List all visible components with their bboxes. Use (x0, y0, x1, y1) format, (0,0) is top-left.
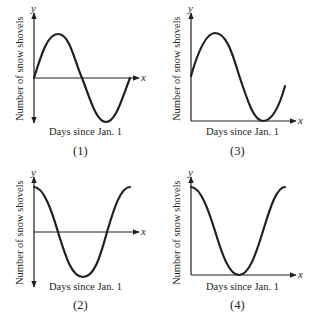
graph-2: y x Number of snow shovels Days since Ja… (14, 166, 146, 312)
y-axis-label: Number of snow shovels (171, 180, 182, 285)
graph-caption: (1) (73, 144, 88, 158)
y-axis-label: Number of snow shovels (171, 16, 182, 121)
graph-caption: (3) (230, 144, 245, 158)
x-axis-letter: x (140, 71, 146, 83)
y-axis-letter: y (187, 166, 193, 178)
x-axis-label: Days since Jan. 1 (49, 126, 122, 137)
x-axis-letter: x (297, 268, 303, 280)
graph-caption: (2) (73, 298, 88, 312)
y-axis-letter: y (30, 2, 36, 14)
graph-grid: y x Number of snow shovels Days since Ja… (0, 0, 313, 313)
y-axis-letter: y (187, 2, 193, 14)
x-axis-letter: x (297, 114, 303, 126)
graph-caption: (4) (230, 298, 245, 312)
y-axis-label: Number of snow shovels (14, 180, 25, 285)
y-axis-letter: y (30, 166, 36, 178)
x-axis-label: Days since Jan. 1 (206, 281, 279, 292)
graph-1: y x Number of snow shovels Days since Ja… (14, 2, 146, 158)
x-axis-letter: x (140, 225, 146, 237)
x-axis-label: Days since Jan. 1 (49, 281, 122, 292)
graph-3: y x Number of snow shovels Days since Ja… (171, 2, 303, 158)
curve (191, 187, 285, 275)
y-axis-label: Number of snow shovels (14, 16, 25, 121)
graph-4: y x Number of snow shovels Days since Ja… (171, 166, 303, 312)
curve (191, 33, 285, 121)
x-axis-label: Days since Jan. 1 (206, 126, 279, 137)
